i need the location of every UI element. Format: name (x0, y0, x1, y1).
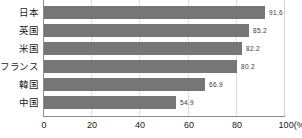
category-label-usa: 米国 (19, 42, 39, 55)
category-label-uk: 英国 (19, 24, 39, 37)
xtick-80: 80 (232, 120, 242, 130)
xtick-20: 20 (87, 120, 97, 130)
bar-chart: 日本 英国 米国 フランス 韓国 中国 91.6 85.2 82.2 80.2 … (0, 0, 302, 138)
bar-value-france: 80.2 (241, 60, 255, 73)
plot-area: 91.6 85.2 82.2 80.2 66.9 54.9 (43, 0, 285, 117)
category-axis-labels: 日本 英国 米国 フランス 韓国 中国 (0, 0, 41, 117)
category-label-china: 中国 (19, 96, 39, 109)
bar-value-japan: 91.6 (269, 6, 283, 19)
bar-value-usa: 82.2 (246, 42, 260, 55)
bar-france (44, 60, 237, 73)
bar-china (44, 96, 176, 109)
xtick-100-percent: 100(%) (279, 120, 302, 130)
bar-japan (44, 6, 265, 19)
category-label-japan: 日本 (19, 6, 39, 19)
bar-korea (44, 78, 205, 91)
bar-value-uk: 85.2 (253, 24, 267, 37)
bar-value-china: 54.9 (180, 96, 194, 109)
x-axis-line (43, 116, 285, 117)
category-label-korea: 韓国 (19, 78, 39, 91)
xtick-40: 40 (135, 120, 145, 130)
plot-frame-right (284, 0, 285, 117)
category-label-france: フランス (0, 60, 39, 73)
bar-uk (44, 24, 249, 37)
x-axis-tick-labels: 0 20 40 60 80 100(%) (43, 118, 302, 138)
xtick-60: 60 (184, 120, 194, 130)
bar-value-korea: 66.9 (209, 78, 223, 91)
y-axis-line (43, 0, 44, 117)
xtick-0: 0 (41, 120, 46, 130)
bar-usa (44, 42, 242, 55)
